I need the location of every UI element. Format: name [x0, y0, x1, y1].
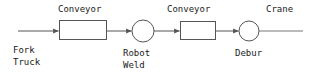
node-conveyor-2 — [181, 22, 216, 40]
node-robot-weld — [132, 20, 154, 42]
label-fork-truck-line2: Truck — [13, 57, 40, 68]
label-fork-truck-line1: Fork — [13, 45, 35, 56]
node-conveyor-1 — [60, 21, 107, 40]
node-debur — [239, 21, 259, 41]
label-debur: Debur — [235, 48, 262, 59]
label-robot-weld-line2: Weld — [123, 60, 145, 71]
label-robot-weld-line1: Robot — [123, 48, 150, 59]
process-flow-diagram: Conveyor Conveyor Crane Fork Truck Robot… — [0, 0, 315, 81]
label-conveyor-1: Conveyor — [58, 4, 101, 15]
label-conveyor-2: Conveyor — [167, 4, 210, 15]
label-crane: Crane — [266, 4, 293, 15]
